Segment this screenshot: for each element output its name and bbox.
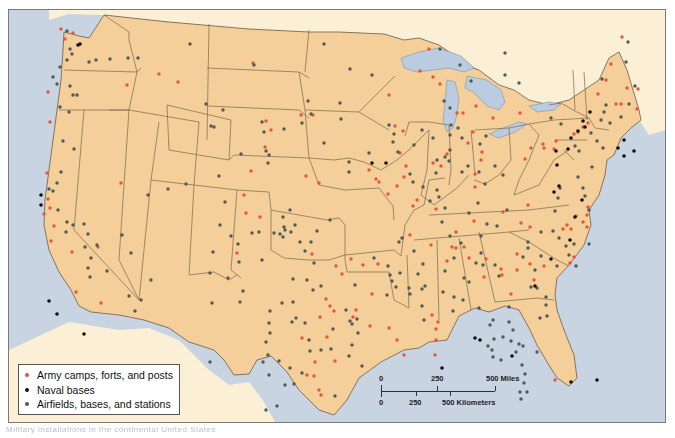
airfield-marker: [261, 360, 264, 363]
airfield-marker: [390, 279, 393, 282]
airfield-marker: [400, 236, 403, 239]
airfield-marker: [353, 283, 356, 286]
airfield-marker: [443, 269, 446, 272]
airfield-marker: [59, 170, 62, 173]
airfield-marker: [486, 344, 489, 347]
naval-marker: [616, 146, 620, 150]
scale-tick: [416, 392, 417, 396]
us-military-installations-map: [9, 10, 665, 422]
airfield-marker: [367, 151, 370, 154]
airfield-marker: [549, 116, 552, 119]
naval-marker: [554, 149, 558, 153]
naval-dot-icon: [25, 388, 29, 392]
airfield-marker: [355, 317, 358, 320]
army-marker: [619, 102, 622, 105]
airfield-marker: [551, 229, 554, 232]
airfield-marker: [72, 147, 75, 150]
airfield-marker: [288, 208, 291, 211]
airfield-marker: [322, 141, 325, 144]
army-marker: [59, 27, 62, 30]
airfield-marker: [75, 93, 78, 96]
airfield-marker: [348, 319, 351, 322]
airfield-marker: [499, 358, 502, 361]
airfield-marker: [479, 251, 482, 254]
army-marker: [45, 171, 48, 174]
airfield-marker: [94, 58, 97, 61]
airfield-marker: [492, 337, 495, 340]
army-marker: [528, 225, 531, 228]
army-marker: [436, 320, 439, 323]
airfield-marker: [105, 269, 108, 272]
army-marker: [402, 175, 405, 178]
airfield-marker: [624, 60, 627, 63]
legend-item-naval: Naval bases: [25, 383, 173, 398]
scale-tick: [381, 385, 382, 397]
naval-marker: [583, 125, 587, 129]
airfield-marker: [526, 246, 529, 249]
airfield-marker: [268, 309, 271, 312]
airfield-marker: [267, 153, 270, 156]
airfield-marker: [564, 244, 567, 247]
airfield-marker: [305, 278, 308, 281]
army-marker: [523, 157, 526, 160]
airfield-marker: [126, 56, 129, 59]
airfield-marker: [573, 144, 576, 147]
airfield-marker: [449, 123, 452, 126]
army-marker: [568, 261, 571, 264]
naval-marker: [622, 138, 626, 142]
scale-km-500: 500 Kilometers: [442, 398, 495, 407]
army-marker: [269, 128, 272, 131]
airfield-marker: [291, 300, 294, 303]
army-marker: [74, 290, 77, 293]
scale-bar: 0 250 500 Miles 0 250 500 Kilometers: [379, 374, 539, 420]
army-marker: [500, 273, 503, 276]
airfield-marker: [239, 152, 242, 155]
army-marker: [519, 221, 522, 224]
army-marker: [401, 129, 404, 132]
airfield-marker: [315, 229, 318, 232]
airfield-marker: [89, 256, 92, 259]
airfield-marker: [283, 228, 286, 231]
airfield-marker: [538, 316, 541, 319]
airfield-marker: [226, 276, 229, 279]
airfield-marker: [339, 117, 342, 120]
airfield-marker: [452, 295, 455, 298]
airfield-marker: [493, 263, 496, 266]
airfield-marker: [211, 250, 214, 253]
airfield-marker: [435, 158, 438, 161]
airfield-marker: [277, 359, 280, 362]
army-marker: [474, 104, 477, 107]
airfield-marker: [61, 139, 64, 142]
army-marker: [484, 257, 487, 260]
airfield-marker: [544, 303, 547, 306]
airfield-marker: [485, 222, 488, 225]
airfield-marker: [458, 63, 461, 66]
army-marker: [604, 78, 607, 81]
army-marker: [561, 227, 564, 230]
airfield-marker: [328, 218, 331, 221]
map-legend: Army camps, forts, and posts Naval bases…: [18, 364, 180, 415]
airfield-marker: [166, 187, 169, 190]
army-marker: [42, 212, 45, 215]
airfield-marker: [501, 173, 504, 176]
airfield-marker: [478, 142, 481, 145]
army-marker: [569, 227, 572, 230]
airfield-marker: [491, 318, 494, 321]
army-marker: [63, 37, 66, 40]
naval-marker: [478, 338, 482, 342]
airfield-dot-icon: [25, 402, 29, 406]
airfield-marker: [264, 340, 267, 343]
airfield-marker: [420, 304, 423, 307]
airfield-marker: [476, 201, 479, 204]
airfield-marker: [448, 148, 451, 151]
army-marker: [529, 146, 532, 149]
airfield-marker: [257, 230, 260, 233]
airfield-marker: [65, 220, 68, 223]
army-marker: [427, 47, 430, 50]
airfield-marker: [539, 230, 542, 233]
airfield-marker: [477, 170, 480, 173]
army-marker: [46, 90, 49, 93]
airfield-marker: [420, 287, 423, 290]
naval-marker: [566, 147, 570, 151]
airfield-marker: [51, 75, 54, 78]
